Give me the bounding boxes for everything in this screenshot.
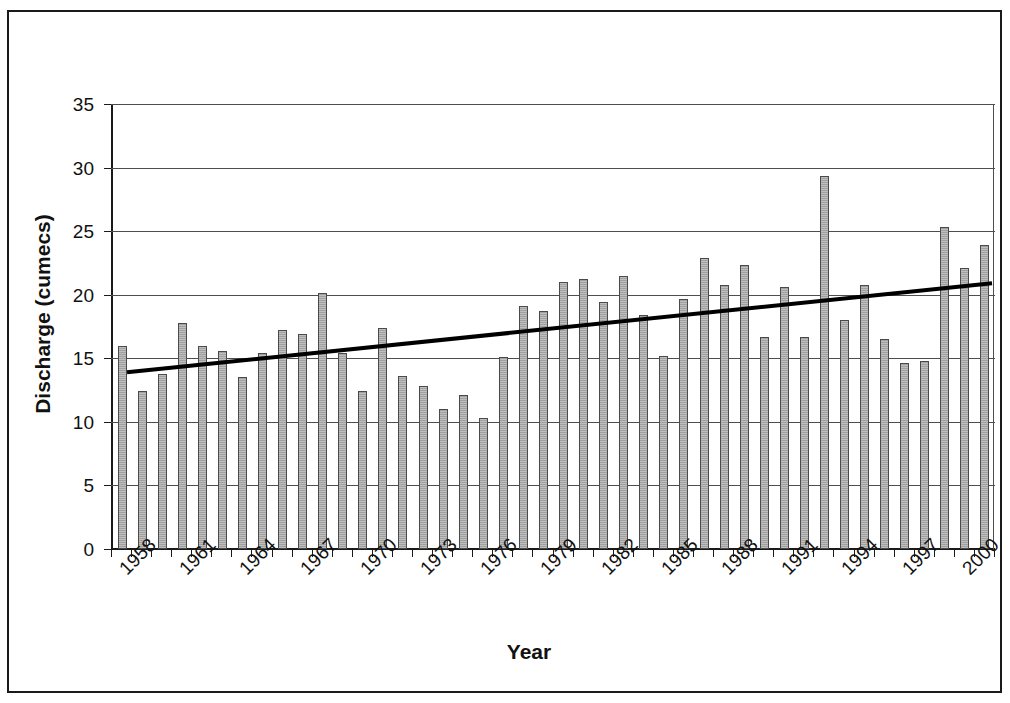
y-axis-title-wrapper: Discharge (cumecs) (23, 12, 57, 612)
bar (178, 323, 187, 549)
bar (980, 245, 989, 549)
bar (439, 409, 448, 549)
bar (800, 337, 809, 549)
x-tick-mark (352, 550, 353, 557)
bar (138, 391, 147, 549)
x-tick-mark (111, 550, 112, 557)
bar (900, 363, 909, 549)
x-tick-mark (954, 550, 955, 557)
bar (940, 227, 949, 549)
y-tick-label: 10 (56, 413, 94, 432)
x-tick-mark (532, 550, 533, 557)
y-tick-mark (104, 104, 111, 105)
bar (499, 357, 508, 549)
bar (860, 285, 869, 549)
y-tick-mark (104, 422, 111, 423)
x-axis-title: Year (249, 640, 809, 664)
y-tick-label: 30 (56, 159, 94, 178)
y-tick-label: 25 (56, 222, 94, 241)
bar (338, 353, 347, 549)
bar (118, 346, 127, 549)
figure-border: Discharge (cumecs) 05101520253035 195819… (7, 10, 1002, 693)
y-tick-mark (104, 295, 111, 296)
bar (820, 176, 829, 549)
bar (740, 265, 749, 549)
x-tick-mark (472, 550, 473, 557)
x-tick-mark (773, 550, 774, 557)
x-tick-mark (292, 550, 293, 557)
bar (158, 374, 167, 549)
bar (720, 285, 729, 549)
bar (258, 353, 267, 549)
bar (619, 276, 628, 549)
x-tick-mark (894, 550, 895, 557)
y-tick-label: 15 (56, 349, 94, 368)
bar (539, 311, 548, 549)
bar (599, 302, 608, 549)
bar (880, 339, 889, 549)
y-tick-mark (104, 168, 111, 169)
bar (378, 328, 387, 549)
bar (579, 279, 588, 549)
bar (700, 258, 709, 549)
bar (519, 306, 528, 549)
bar (760, 337, 769, 549)
bar (198, 346, 207, 549)
bar (840, 320, 849, 549)
x-tick-mark (653, 550, 654, 557)
bar (318, 293, 327, 549)
y-tick-mark (104, 549, 111, 550)
bar (398, 376, 407, 549)
x-tick-mark (171, 550, 172, 557)
x-tick-mark (713, 550, 714, 557)
bar (238, 377, 247, 549)
x-tick-mark (412, 550, 413, 557)
x-tick-mark (833, 550, 834, 557)
bar (559, 282, 568, 549)
bar (278, 330, 287, 549)
bar (218, 351, 227, 549)
x-tick-mark (231, 550, 232, 557)
bar (679, 299, 688, 549)
bar (960, 268, 969, 549)
y-tick-mark (104, 231, 111, 232)
bar (459, 395, 468, 549)
y-axis-title: Discharge (cumecs) (31, 144, 55, 484)
y-tick-mark (104, 485, 111, 486)
y-tick-label: 35 (56, 95, 94, 114)
bar (298, 334, 307, 549)
bar (479, 418, 488, 549)
bar (358, 391, 367, 549)
bar (419, 386, 428, 549)
y-tick-label: 0 (56, 540, 94, 559)
bar (920, 361, 929, 549)
y-tick-label: 5 (56, 476, 94, 495)
x-tick-mark (593, 550, 594, 557)
y-tick-label: 20 (56, 286, 94, 305)
plot-area (111, 104, 994, 549)
y-tick-mark (104, 358, 111, 359)
bar (659, 356, 668, 549)
bar (780, 287, 789, 549)
bar (639, 315, 648, 549)
